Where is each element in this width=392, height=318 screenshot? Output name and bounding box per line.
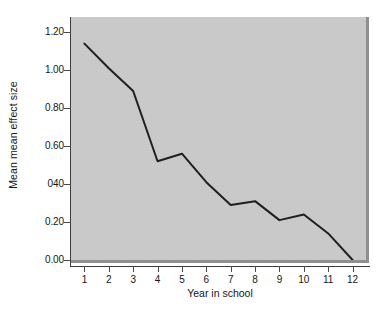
x-tick-mark [109,266,110,272]
y-tick-mark [64,32,71,33]
y-tick-mark [64,222,71,223]
y-tick-mark [64,184,71,185]
y-tick-mark [64,146,71,147]
x-tick-mark [133,266,134,272]
y-tick-mark [64,70,71,71]
y-tick-label: 0.60 [26,141,64,151]
x-tick-mark [206,266,207,272]
y-axis-title-text: Mean mean effect size [7,81,19,189]
y-tick-label: 0.00 [26,255,64,265]
plot-area [71,17,369,263]
x-tick-mark [353,266,354,272]
y-tick-label: 0.20 [26,217,64,227]
data-line-series [71,17,366,260]
y-tick-label: 1.20 [26,27,64,37]
x-tick-mark [304,266,305,272]
y-axis-title: Mean mean effect size [0,0,26,270]
x-tick-mark [328,266,329,272]
caption-fragment [6,309,306,318]
y-axis-tick-labels: 0.000.200400.600.801.001.20 [26,0,64,270]
x-tick-mark [158,266,159,272]
x-tick-mark [231,266,232,272]
x-tick-label: 12 [338,274,368,285]
x-tick-mark [279,266,280,272]
x-tick-mark [182,266,183,272]
y-tick-label: 0.80 [26,103,64,113]
y-tick-label: 040 [26,179,64,189]
y-tick-mark [64,108,71,109]
x-tick-mark [84,266,85,272]
series-polyline [84,44,352,260]
chart-figure: Mean mean effect size 0.000.200400.600.8… [0,0,392,318]
x-axis-title: Year in school [71,287,369,299]
y-tick-label: 1.00 [26,65,64,75]
y-tick-mark [64,260,71,261]
x-tick-mark [255,266,256,272]
